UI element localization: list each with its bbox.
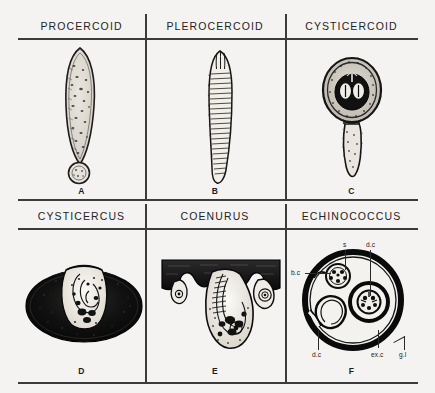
row1-bottom-rule	[18, 199, 418, 201]
panel-letter-f: F	[285, 366, 418, 376]
header-procercoid: PROCERCOID	[18, 20, 145, 32]
leader-exogenous-cyst	[378, 330, 379, 348]
label-daughter-cyst-bottom: d.c	[312, 351, 321, 358]
coenurus-larva	[160, 254, 282, 364]
panel-letter-d: D	[18, 366, 145, 376]
header-coenurus: COENURUS	[145, 210, 285, 222]
leader-scolex	[345, 250, 346, 270]
column-divider-right-2	[285, 204, 287, 382]
column-divider-left	[145, 14, 147, 199]
label-exogenous-cyst: ex.c	[371, 351, 384, 358]
column-divider-right	[285, 14, 287, 199]
label-brood-capsule: b.c	[291, 269, 300, 276]
panel-letter-b: B	[145, 186, 285, 196]
plerocercoid-larva	[192, 48, 250, 188]
cysticercus-larva	[22, 250, 146, 358]
label-germinal-layer: g.l	[399, 351, 406, 358]
leader-daughter-cyst-top	[370, 250, 371, 296]
label-daughter-cyst-top: d.c	[366, 241, 375, 248]
figure-bottom-rule	[18, 382, 418, 384]
header-rule-top-row1	[18, 38, 418, 40]
panel-letter-c: C	[285, 186, 418, 196]
header-cysticercoid: CYSTICERCOID	[285, 20, 418, 32]
leader-brood-capsule	[305, 273, 331, 274]
label-scolex: s	[343, 241, 346, 248]
leader-germinal-layer	[404, 336, 405, 350]
header-plerocercoid: PLEROCERCOID	[145, 20, 285, 32]
cysticercoid-larva	[316, 54, 388, 182]
procercoid-larva	[48, 44, 114, 186]
header-rule-top-row2	[18, 228, 418, 230]
leader-daughter-cyst-bottom	[318, 330, 319, 350]
header-echinococcus: ECHINOCOCCUS	[285, 210, 418, 222]
panel-letter-e: E	[145, 366, 285, 376]
header-cysticercus: CYSTICERCUS	[18, 210, 145, 222]
echinococcus-hydatid-cyst	[297, 248, 409, 354]
cestode-larval-types-figure: PROCERCOID PLEROCERCOID CYSTICERCOID CYS…	[0, 0, 435, 393]
panel-letter-a: A	[18, 186, 145, 196]
